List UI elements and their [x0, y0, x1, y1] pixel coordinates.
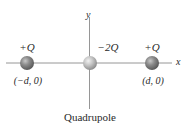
charge-label-left: +Q	[19, 42, 34, 53]
quadrupole-diagram: y x +Q −2Q +Q (−d, 0) (d, 0) Quadrupole	[0, 0, 188, 131]
charge-label-right: +Q	[144, 42, 159, 53]
charge-sphere-right	[145, 56, 159, 70]
charge-sphere-left	[20, 56, 34, 70]
coord-label-right: (d, 0)	[142, 76, 164, 86]
x-axis-label: x	[176, 57, 180, 67]
coord-label-left: (−d, 0)	[14, 76, 42, 86]
charge-sphere-center	[83, 56, 97, 70]
diagram-caption: Quadrupole	[64, 112, 116, 123]
y-axis-label: y	[86, 10, 90, 20]
charge-label-center: −2Q	[98, 42, 119, 53]
